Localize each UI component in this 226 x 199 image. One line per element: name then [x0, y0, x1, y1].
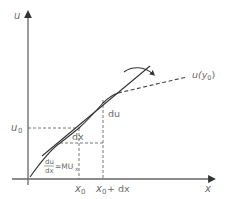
tangent-line — [42, 66, 150, 156]
x0-sub: 0 — [81, 188, 85, 196]
u0-sub: 0 — [18, 127, 22, 135]
u0-label: u — [11, 122, 17, 133]
curve-label: u(y0) — [192, 69, 215, 82]
dx-label: dx — [72, 131, 84, 142]
x0-label: x — [74, 183, 81, 194]
y-axis-label: u — [14, 10, 20, 21]
rotation-arrow-icon — [124, 68, 153, 74]
utility-curve-dashed — [118, 77, 187, 93]
x0dx-sub: 0 — [102, 188, 106, 196]
mu-numerator: du — [45, 158, 54, 166]
mu-equals: =MU — [55, 162, 73, 171]
marginal-utility-formula: du dx =MU x — [44, 158, 79, 175]
mu-denominator: dx — [45, 167, 54, 175]
x0dx-label: x — [95, 183, 102, 194]
x0dx-tail: + dx — [107, 183, 130, 194]
x-axis-label: x — [204, 183, 211, 194]
curve-label-close: ) — [212, 69, 216, 80]
du-label: du — [108, 108, 120, 119]
utility-diagram: u x u 0 x 0 x 0 + dx dx du u(y0) du dx =… — [0, 0, 226, 199]
mu-sub: x — [75, 166, 79, 172]
curve-label-main: u(y — [192, 69, 208, 80]
